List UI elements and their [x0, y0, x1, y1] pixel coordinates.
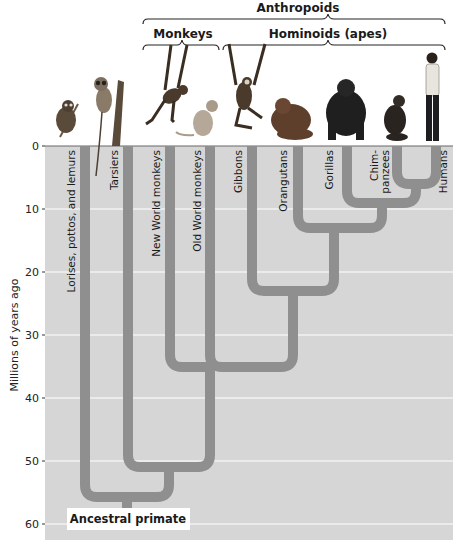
lineage-label-humans: Humans	[437, 150, 449, 193]
gibbon-illustration	[229, 44, 265, 128]
ancestral-primate-box: Ancestral primate	[67, 508, 190, 530]
lineage-label-lorises: Lorises, pottos, and lemurs	[65, 150, 77, 292]
human-illustration	[426, 53, 439, 142]
lineage-label-gibbons: Gibbons	[232, 150, 244, 193]
orangutan-illustration	[271, 98, 313, 140]
tick-60: 60	[25, 518, 39, 531]
y-axis-title: Millions of years ago	[8, 278, 21, 391]
chimpanzee-illustration	[384, 95, 408, 141]
tick-0: 0	[32, 140, 39, 153]
monkeys-label: Monkeys	[153, 27, 213, 41]
monkeys-bracket: Monkeys	[143, 27, 219, 50]
y-axis: 0 10 20 30 40 50 60 Millions of years ag…	[8, 140, 45, 531]
anthropoids-label: Anthropoids	[257, 1, 340, 15]
loris-illustration	[56, 100, 78, 137]
ancestral-primate-label: Ancestral primate	[70, 512, 187, 526]
primate-phylogeny-figure: Anthropoids Monkeys Hominoids (apes) 0 1…	[0, 0, 461, 555]
tick-10: 10	[25, 203, 39, 216]
tick-20: 20	[25, 266, 39, 279]
lineage-label-orangutans: Orangutans	[277, 150, 289, 212]
hominoids-label: Hominoids (apes)	[269, 27, 388, 41]
lineage-label-tarsiers: Tarsiers	[108, 150, 120, 191]
lineage-label-chimpanzees-line2: panzees	[379, 150, 391, 194]
lineage-label-new-world-monkeys: New World monkeys	[150, 150, 162, 257]
hominoids-bracket: Hominoids (apes)	[223, 27, 445, 50]
macaque-illustration	[176, 100, 218, 136]
gorilla-illustration	[326, 79, 366, 140]
tick-50: 50	[25, 455, 39, 468]
spider-monkey-illustration	[146, 45, 188, 124]
tick-40: 40	[25, 392, 39, 405]
anthropoids-bracket: Anthropoids	[143, 1, 445, 24]
lineage-label-gorillas: Gorillas	[323, 150, 335, 190]
tick-30: 30	[25, 329, 39, 342]
lineage-label-old-world-monkeys: Old World monkeys	[191, 150, 203, 252]
